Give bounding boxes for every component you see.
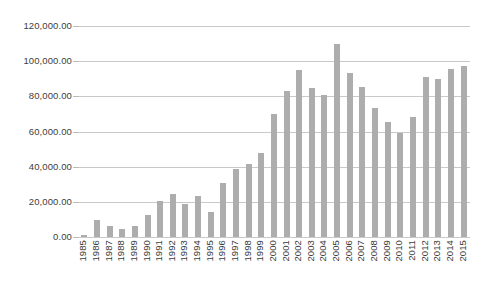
bar [145, 215, 151, 237]
bar [385, 122, 391, 237]
bar-slot [204, 26, 217, 237]
x-tick-label: 1992 [167, 240, 177, 262]
x-tick-label: 2001 [281, 240, 291, 262]
bar-slot [242, 26, 255, 237]
bar [334, 44, 340, 237]
bar-slot [280, 26, 293, 237]
bar-slot [230, 26, 243, 237]
x-slot: 2008 [369, 240, 382, 283]
bar-slot [103, 26, 116, 237]
bar [107, 226, 113, 237]
x-tick-label: 1993 [179, 240, 189, 262]
y-tick-label: 40,000.00 [0, 162, 72, 172]
x-tick-label: 2010 [394, 240, 404, 262]
x-slot: 1990 [141, 240, 154, 283]
x-slot: 1993 [179, 240, 192, 283]
x-tick-label: 2013 [432, 240, 442, 262]
y-tick-label: 0.00 [0, 232, 72, 242]
x-slot: 1996 [217, 240, 230, 283]
x-tick-label: 1991 [154, 240, 164, 262]
x-tick-label: 2014 [445, 240, 455, 262]
bar [359, 87, 365, 237]
bar-slot [154, 26, 167, 237]
x-tick-label: 2007 [356, 240, 366, 262]
bar [258, 153, 264, 237]
bar [119, 229, 125, 237]
x-slot: 2014 [445, 240, 458, 283]
bar [157, 201, 163, 237]
bar [410, 117, 416, 237]
x-tick-label: 2015 [458, 240, 468, 262]
y-tick-mark [73, 61, 79, 62]
bar [271, 114, 277, 237]
bar-slot [268, 26, 281, 237]
bar-chart: 0.0020,000.0040,000.0060,000.0080,000.00… [0, 0, 484, 283]
x-tick-label: 1986 [91, 240, 101, 262]
bar-slot [394, 26, 407, 237]
y-tick-mark [73, 96, 79, 97]
bar [372, 108, 378, 237]
bar-slot [179, 26, 192, 237]
bar [233, 169, 239, 237]
bar-slot [129, 26, 142, 237]
bar-slot [432, 26, 445, 237]
axis-baseline [78, 237, 470, 238]
x-slot: 2010 [394, 240, 407, 283]
bar-slot [457, 26, 470, 237]
x-slot: 1994 [192, 240, 205, 283]
x-tick-label: 1989 [129, 240, 139, 262]
x-tick-label: 1997 [230, 240, 240, 262]
x-tick-label: 2000 [268, 240, 278, 262]
bar-slot [306, 26, 319, 237]
x-slot: 2000 [268, 240, 281, 283]
bar-slot [445, 26, 458, 237]
x-tick-label: 2005 [331, 240, 341, 262]
bar [94, 220, 100, 237]
x-tick-label: 2002 [293, 240, 303, 262]
bar [170, 194, 176, 237]
x-tick-label: 1990 [141, 240, 151, 262]
bar [448, 69, 454, 237]
bar [461, 66, 467, 237]
x-tick-label: 1994 [192, 240, 202, 262]
bar [246, 164, 252, 237]
bar-slot [166, 26, 179, 237]
x-slot: 2002 [293, 240, 306, 283]
bar-slot [116, 26, 129, 237]
x-tick-label: 1996 [217, 240, 227, 262]
bar [296, 70, 302, 237]
y-tick-label: 20,000.00 [0, 197, 72, 207]
x-tick-label: 2008 [369, 240, 379, 262]
x-slot: 1999 [255, 240, 268, 283]
bar-slot [293, 26, 306, 237]
bars-layer [78, 26, 470, 237]
bar-slot [369, 26, 382, 237]
y-tick-mark [73, 132, 79, 133]
bar-slot [419, 26, 432, 237]
x-tick-label: 2011 [407, 240, 417, 261]
bar [309, 88, 315, 237]
plot-area [78, 26, 470, 237]
bar [195, 196, 201, 237]
x-slot: 2007 [356, 240, 369, 283]
x-slot: 1989 [129, 240, 142, 283]
bar [284, 91, 290, 237]
bar [397, 133, 403, 237]
y-tick-label: 100,000.00 [0, 56, 72, 66]
x-tick-label: 2012 [420, 240, 430, 262]
bar-slot [78, 26, 91, 237]
y-tick-mark [73, 167, 79, 168]
x-slot: 1985 [78, 240, 91, 283]
bar [81, 235, 87, 237]
x-slot: 2005 [331, 240, 344, 283]
x-tick-label: 1987 [104, 240, 114, 262]
bar [435, 79, 441, 237]
bar-slot [192, 26, 205, 237]
y-tick-mark [73, 26, 79, 27]
x-tick-label: 2003 [306, 240, 316, 262]
x-slot: 1986 [91, 240, 104, 283]
bar [208, 212, 214, 237]
y-tick-label: 120,000.00 [0, 21, 72, 31]
bar [347, 73, 353, 237]
x-tick-label: 1995 [205, 240, 215, 262]
